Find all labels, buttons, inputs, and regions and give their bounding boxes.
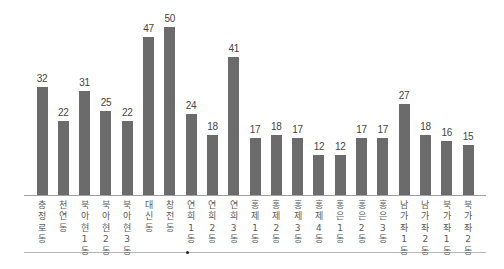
bar-value-label: 17 [371,124,395,135]
category-label: 연희1동 [183,200,199,246]
bar [420,135,431,195]
bar-value-label: 22 [51,107,75,118]
bar [356,138,367,195]
bar [186,114,197,195]
category-label: 홍제4동 [311,200,327,246]
category-label: 북아현3동 [119,200,135,257]
category-label: 연희3동 [226,200,242,246]
bar [441,141,452,195]
category-label: 홍은2동 [354,200,370,246]
bar [228,57,239,195]
category-label: 북가좌2동 [460,200,476,257]
bar [463,145,474,195]
category-label: 남가좌1동 [396,200,412,257]
bar [79,91,90,195]
category-label: 대신동 [141,200,157,234]
bar [207,135,218,195]
bar-value-label: 24 [179,100,203,111]
bar [399,104,410,195]
category-label: 천연동 [55,200,71,234]
bar-chart: 32충정로동22천연동31북아현1동25북아현2동22북아현3동47대신동50창… [0,0,504,269]
category-label: 북아현1동 [77,200,93,257]
bar [100,111,111,195]
category-label: 홍은3동 [375,200,391,246]
bar [377,138,388,195]
category-label: 충정로동 [34,200,50,246]
category-label: 남가좌2동 [417,200,433,257]
bar [313,155,324,195]
bar [37,87,48,195]
bar [250,138,261,195]
category-label: 홍제2동 [268,200,284,246]
bar-value-label: 47 [137,23,161,34]
bar [58,121,69,195]
bar [122,121,133,195]
x-axis-line [24,195,486,196]
category-label: 연희2동 [204,200,220,246]
bar [271,135,282,195]
marker-dot [186,251,189,254]
bar-value-label: 15 [456,131,480,142]
bar-value-label: 18 [200,121,224,132]
category-label: 북아현2동 [98,200,114,257]
bar-value-label: 27 [392,90,416,101]
bar [164,27,175,195]
category-label: 홍은1동 [332,200,348,246]
bar-value-label: 50 [158,13,182,24]
bar-value-label: 31 [73,77,97,88]
bar-value-label: 17 [286,124,310,135]
bar [143,37,154,195]
bar-value-label: 41 [222,43,246,54]
bar [292,138,303,195]
category-label: 북가좌1동 [439,200,455,257]
bar-value-label: 32 [30,73,54,84]
bar-value-label: 22 [115,107,139,118]
category-label: 홍제3동 [290,200,306,246]
category-label: 창전동 [162,200,178,234]
category-label: 홍제1동 [247,200,263,246]
bar [335,155,346,195]
bar-value-label: 12 [328,141,352,152]
